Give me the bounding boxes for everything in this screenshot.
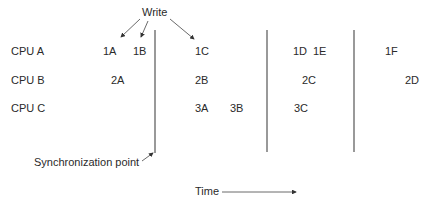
- event-2b: 2B: [195, 74, 208, 86]
- write-arrow-1b: [141, 21, 148, 37]
- write-arrow-1c: [170, 19, 194, 39]
- event-3c: 3C: [294, 102, 308, 114]
- row-label-cpu-a: CPU A: [11, 45, 44, 57]
- event-2d: 2D: [405, 74, 419, 86]
- event-3a: 3A: [195, 102, 208, 114]
- row-label-cpu-c: CPU C: [11, 102, 45, 114]
- sync-point-label: Synchronization point: [34, 156, 139, 168]
- event-1b: 1B: [133, 45, 146, 57]
- event-1e: 1E: [313, 45, 326, 57]
- write-arrow-1a: [121, 19, 140, 37]
- sync-point-arrow: [142, 153, 153, 161]
- row-label-cpu-b: CPU B: [11, 74, 45, 86]
- event-1a: 1A: [103, 45, 116, 57]
- time-label: Time: [195, 185, 219, 197]
- event-2c: 2C: [302, 74, 316, 86]
- event-1f: 1F: [385, 45, 398, 57]
- diagram-lines: [0, 0, 429, 207]
- event-1c: 1C: [195, 45, 209, 57]
- write-label: Write: [142, 6, 167, 18]
- event-1d: 1D: [293, 45, 307, 57]
- event-3b: 3B: [230, 102, 243, 114]
- event-2a: 2A: [111, 74, 124, 86]
